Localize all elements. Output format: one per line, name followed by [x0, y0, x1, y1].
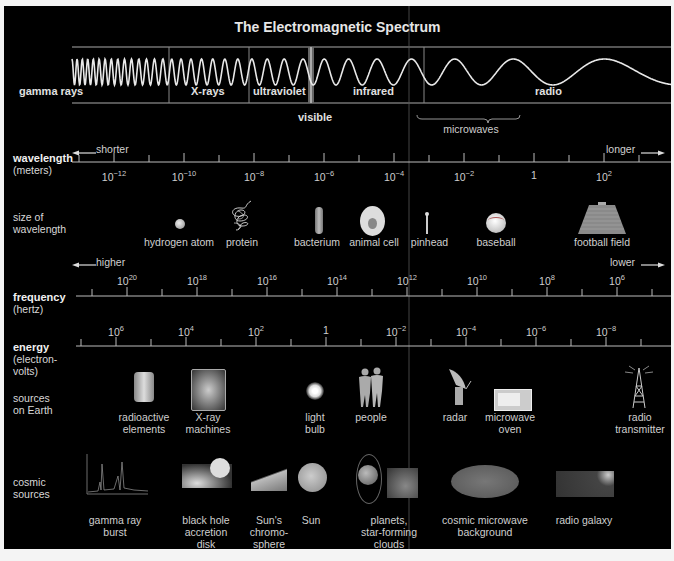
cosmic-microwave-background-icon	[451, 465, 519, 498]
band-visible: visible	[298, 111, 332, 123]
planet-ring-icon	[356, 454, 382, 504]
size-baseball: baseball	[471, 236, 521, 248]
wavelength-tick-label: 1	[531, 169, 537, 181]
cosmic-radio-galaxy: radio galaxy	[549, 514, 619, 526]
wavelength-title: wavelength	[13, 152, 73, 164]
size-football-field: football field	[567, 236, 637, 248]
frequency-tick-label: 1018	[187, 273, 207, 287]
band-infrared: infrared	[353, 85, 394, 97]
cosmic-gamma-ray-burst: gamma rayburst	[80, 514, 150, 538]
lower-label: lower	[610, 256, 635, 268]
cosmic-sun-chromosphere: Sun'schromo-sphere	[244, 514, 294, 549]
hydrogen-atom-icon	[175, 219, 185, 229]
frequency-tick-label: 1010	[467, 273, 487, 287]
frequency-tick-label: 1016	[257, 273, 277, 287]
energy-tick-label: 102	[248, 324, 264, 338]
earth-radio-transmitter: radiotransmitter	[609, 411, 671, 435]
protein-icon	[224, 199, 260, 233]
page-title: The Electromagnetic Spectrum	[4, 19, 671, 35]
wavelength-tick-label: 10−12	[102, 169, 126, 183]
sun-chromosphere-icon	[251, 466, 287, 491]
light-bulb-icon	[306, 382, 324, 400]
wavelength-tick-label: 10−2	[454, 169, 474, 183]
football-field-icon	[577, 202, 627, 236]
cosmic-black-hole: black holeaccretiondisk	[180, 514, 232, 549]
energy-tick-label: 1	[323, 324, 329, 336]
size-bacterium: bacterium	[292, 236, 342, 248]
animal-cell-icon	[360, 206, 385, 236]
band-gamma-rays: gamma rays	[19, 85, 83, 97]
frequency-tick-label: 108	[539, 273, 555, 287]
cosmic-sources-title: cosmicsources	[13, 476, 50, 500]
longer-label: longer	[606, 143, 635, 155]
earth-radioactive-elements: radioactiveelements	[113, 411, 175, 435]
band-ultraviolet: ultraviolet	[253, 85, 306, 97]
band-radio: radio	[535, 85, 562, 97]
energy-title: energy	[13, 341, 49, 353]
size-animal-cell: animal cell	[344, 236, 404, 248]
energy-tick-label: 10−6	[526, 324, 546, 338]
earth-sources-title: sourceson Earth	[13, 392, 53, 416]
frequency-tick-label: 1020	[117, 273, 137, 287]
wavelength-tick-label: 10−4	[384, 169, 404, 183]
earth-xray-machines: X-raymachines	[182, 411, 234, 435]
pinhead-icon	[426, 214, 428, 234]
radio-galaxy-icon	[556, 471, 614, 497]
frequency-tick-label: 1012	[397, 273, 417, 287]
wavelength-tick-label: 10−8	[244, 169, 264, 183]
wavelength-unit: (meters)	[13, 164, 52, 176]
higher-label: higher	[96, 256, 125, 268]
earth-radar: radar	[437, 411, 473, 423]
earth-microwave-oven: microwaveoven	[480, 411, 540, 435]
bacterium-icon	[315, 207, 323, 234]
baseball-icon	[486, 213, 506, 233]
band-x-rays: X-rays	[191, 85, 225, 97]
earth-people: people	[349, 411, 393, 423]
cosmic-planets: planets,star-formingclouds	[358, 514, 420, 549]
radioactive-barrel-icon	[134, 372, 154, 402]
frequency-tick-label: 106	[609, 273, 625, 287]
black-hole-accretion-disk-icon	[182, 464, 232, 488]
energy-unit: (electron-volts)	[13, 353, 57, 377]
radio-transmitter-icon	[621, 362, 657, 410]
microwave-oven-icon	[494, 389, 532, 411]
frequency-title: frequency	[13, 291, 66, 303]
size-hydrogen-atom: hydrogen atom	[134, 236, 224, 248]
earth-light-bulb: lightbulb	[295, 411, 335, 435]
spectrum-diagram: The Electromagnetic Spectrum gamma rays …	[4, 6, 671, 549]
radar-icon	[446, 367, 474, 407]
frequency-tick-label: 1014	[327, 273, 347, 287]
cosmic-microwave-background: cosmic microwavebackground	[435, 514, 535, 538]
star-forming-clouds-icon	[387, 468, 418, 498]
gamma-ray-burst-chart-icon	[84, 452, 150, 502]
energy-tick-label: 104	[178, 324, 194, 338]
energy-tick-label: 10−4	[456, 324, 476, 338]
xray-image-icon	[191, 369, 226, 411]
energy-tick-label: 106	[108, 324, 124, 338]
band-microwaves: microwaves	[436, 123, 506, 135]
frequency-unit: (hertz)	[13, 303, 43, 315]
energy-tick-label: 10−2	[386, 324, 406, 338]
people-icon	[356, 367, 386, 409]
size-title: size ofwavelength	[13, 211, 66, 235]
energy-tick-label: 10−8	[596, 324, 616, 338]
wavelength-tick-label: 10−10	[172, 169, 196, 183]
wavelength-tick-label: 10−6	[314, 169, 334, 183]
cosmic-sun: Sun	[296, 514, 326, 526]
sun-icon	[298, 463, 327, 492]
size-pinhead: pinhead	[407, 236, 452, 248]
size-protein: protein	[222, 236, 262, 248]
wavelength-tick-label: 102	[596, 169, 612, 183]
shorter-label: shorter	[96, 143, 129, 155]
